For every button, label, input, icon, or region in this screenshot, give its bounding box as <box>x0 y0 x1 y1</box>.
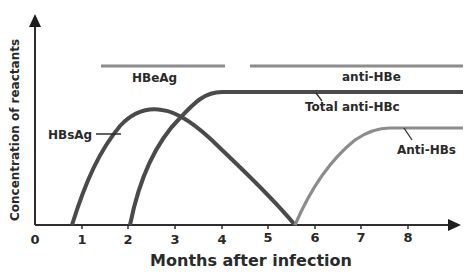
x-tick-label: 0 <box>30 232 39 247</box>
hepatitis-b-serology-chart: 0 1 2 3 4 5 6 7 8 Months after infection… <box>0 0 472 278</box>
x-axis-arrow-icon <box>448 219 461 231</box>
x-tick-label: 1 <box>77 232 86 247</box>
hbsag-curve <box>72 109 295 225</box>
y-axis-title: Concentration of reactants <box>8 39 22 221</box>
hbsag-label: HBsAg <box>48 128 92 142</box>
x-tick-label: 2 <box>123 232 132 247</box>
y-axis-arrow-icon <box>29 14 41 27</box>
x-tick-label: 4 <box>217 232 226 247</box>
x-tick-label: 3 <box>170 232 179 247</box>
x-axis: 0 1 2 3 4 5 6 7 8 <box>30 219 461 247</box>
x-axis-title: Months after infection <box>150 251 352 270</box>
anti-hbe-label: anti-HBe <box>342 70 401 84</box>
total-anti-hbc-label: Total anti-HBc <box>305 100 400 114</box>
x-tick-label: 6 <box>310 230 319 245</box>
total-anti-hbc-curve <box>130 92 463 225</box>
x-tick-label: 5 <box>263 230 272 245</box>
hbeag-label: HBeAg <box>132 71 177 85</box>
x-tick-label: 7 <box>356 230 365 245</box>
y-axis <box>29 14 41 225</box>
x-tick-label: 8 <box>403 230 412 245</box>
anti-hbs-label: Anti-HBs <box>397 143 456 157</box>
anti-hbs-leader <box>404 128 412 140</box>
